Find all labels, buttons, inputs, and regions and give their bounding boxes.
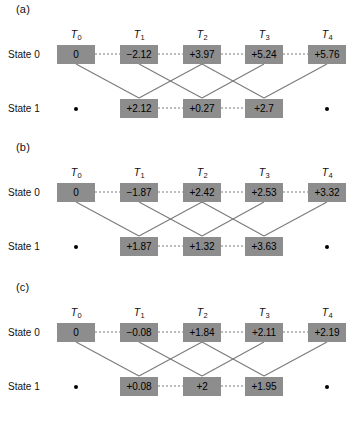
node-state1-t1: +1.87 (120, 237, 158, 256)
time-label-t1: T1 (120, 166, 158, 178)
time-label-t0: T0 (57, 166, 95, 178)
node-state0-t0: 0 (57, 45, 95, 64)
time-label-t2: T2 (183, 306, 221, 318)
node-state1-t2: +2 (183, 377, 221, 396)
node-state1-t0-dot (57, 237, 95, 256)
time-label-t0: T0 (57, 306, 95, 318)
time-label-t0: T0 (57, 28, 95, 40)
time-label-t4: T4 (308, 28, 346, 40)
node-state0-t1: −2.12 (120, 45, 158, 64)
state-label-1: State 1 (8, 103, 54, 114)
panel-a: (a) T0 T1 T2 (0, 0, 364, 135)
node-state1-t1: +0.08 (120, 377, 158, 396)
node-state0-t0: 0 (57, 323, 95, 342)
node-state0-t0: 0 (57, 183, 95, 202)
node-state0-t3: +2.53 (245, 183, 283, 202)
node-state1-t4-dot (308, 377, 346, 396)
node-state0-t1: −1.87 (120, 183, 158, 202)
time-label-t4: T4 (308, 306, 346, 318)
state-label-1: State 1 (8, 241, 54, 252)
node-state0-t1: −0.08 (120, 323, 158, 342)
time-label-t3: T3 (245, 166, 283, 178)
node-state0-t3: +2.11 (245, 323, 283, 342)
node-state1-t2: +0.27 (183, 99, 221, 118)
node-state1-t3: +3.63 (245, 237, 283, 256)
node-state1-t3: +1.95 (245, 377, 283, 396)
node-state0-t2: +2.42 (183, 183, 221, 202)
node-state1-t3: +2.7 (245, 99, 283, 118)
time-label-t1: T1 (120, 306, 158, 318)
node-state1-t4-dot (308, 237, 346, 256)
panel-b: (b) T0 T1 T2 (0, 138, 364, 273)
state-label-0: State 0 (8, 327, 54, 338)
node-state0-t2: +1.84 (183, 323, 221, 342)
time-label-t3: T3 (245, 28, 283, 40)
time-label-t1: T1 (120, 28, 158, 40)
node-state1-t0-dot (57, 377, 95, 396)
state-label-1: State 1 (8, 381, 54, 392)
panel-c: (c) T0 T1 T2 (0, 278, 364, 413)
state-label-0: State 0 (8, 49, 54, 60)
node-state0-t4: +2.19 (308, 323, 346, 342)
node-state1-t0-dot (57, 99, 95, 118)
node-state1-t4-dot (308, 99, 346, 118)
time-label-t2: T2 (183, 28, 221, 40)
time-label-t4: T4 (308, 166, 346, 178)
state-label-0: State 0 (8, 187, 54, 198)
node-state0-t2: +3.97 (183, 45, 221, 64)
trellis-figure: (a) T0 T1 T2 (0, 0, 364, 422)
node-state1-t2: +1.32 (183, 237, 221, 256)
node-state0-t3: +5.24 (245, 45, 283, 64)
time-label-t2: T2 (183, 166, 221, 178)
node-state1-t1: +2.12 (120, 99, 158, 118)
time-label-t3: T3 (245, 306, 283, 318)
node-state0-t4: +3.32 (308, 183, 346, 202)
node-state0-t4: +5.76 (308, 45, 346, 64)
